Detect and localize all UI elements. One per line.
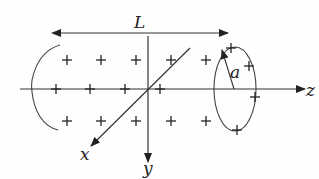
radius-label: a — [230, 62, 240, 82]
plus-charge-icon — [96, 55, 106, 65]
plus-charge-icon — [250, 92, 260, 102]
x-axis-label: x — [80, 144, 90, 164]
cylinder-diagram: L a z y x — [0, 0, 319, 179]
plus-charge-icon — [85, 84, 95, 94]
plus-charge-icon — [120, 84, 130, 94]
plus-charge-icon — [201, 116, 211, 126]
plus-charge-icon — [166, 116, 176, 126]
plus-charge-icon — [155, 84, 165, 94]
plus-charge-icon — [51, 84, 61, 94]
plus-charge-icon — [62, 55, 72, 65]
plus-charge-icon — [244, 61, 254, 71]
length-label: L — [133, 12, 145, 32]
plus-charge-icon — [201, 55, 211, 65]
z-axis-label: z — [305, 80, 316, 100]
plus-charge-icon — [232, 125, 242, 135]
plus-charge-icon — [131, 55, 141, 65]
x-axis — [91, 48, 190, 146]
plus-charge-icon — [62, 116, 72, 126]
y-axis-label: y — [142, 158, 153, 178]
plus-charge-icon — [226, 43, 236, 53]
plus-charge-icon — [96, 116, 106, 126]
plus-charge-icon — [131, 116, 141, 126]
diagram-canvas: L a z y x — [0, 0, 319, 179]
